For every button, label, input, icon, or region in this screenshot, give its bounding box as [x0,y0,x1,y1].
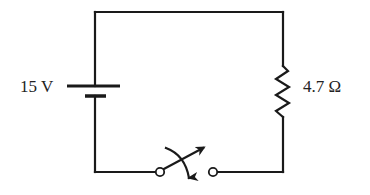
switch-terminal-left [156,168,164,176]
resistor-icon [276,66,289,117]
battery-icon [67,86,120,96]
switch-icon [156,148,217,178]
circuit-diagram: 15 V 4.7 Ω [0,0,370,195]
resistor-label: 4.7 Ω [303,77,341,96]
switch-terminal-right [209,168,217,176]
battery-label: 15 V [20,77,54,96]
